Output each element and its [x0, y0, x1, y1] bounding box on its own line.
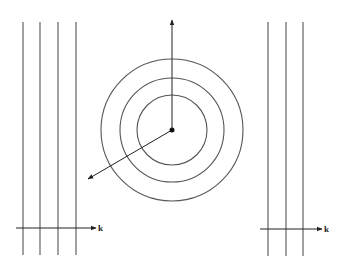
wave-vector-label-left: k — [98, 223, 103, 233]
plane-wave-left — [16, 22, 96, 255]
source-point — [170, 128, 175, 133]
radial-arrow — [88, 130, 172, 179]
plane-wave-right — [260, 22, 322, 256]
spherical-wave — [88, 20, 243, 201]
wave-vector-label-right: k — [324, 224, 329, 234]
wave-diagram: k k — [0, 0, 343, 268]
